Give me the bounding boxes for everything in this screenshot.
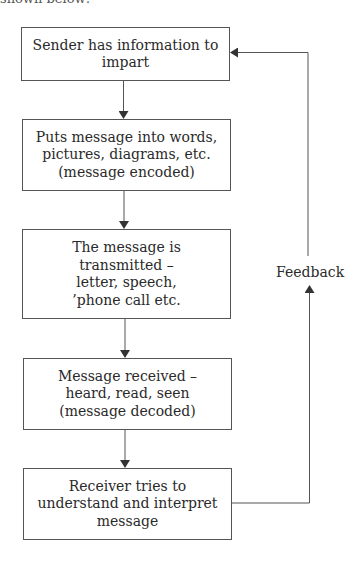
- feedback-label: Feedback: [276, 263, 344, 281]
- step-transmit-label: The message is transmitted – letter, spe…: [72, 239, 181, 309]
- step-receive: Message received – heard, read, seen (me…: [23, 358, 232, 430]
- step-encode: Puts message into words, pictures, diagr…: [22, 119, 231, 191]
- step-sender: Sender has information to impart: [21, 27, 230, 81]
- step-transmit: The message is transmitted – letter, spe…: [22, 229, 231, 319]
- step-receive-label: Message received – heard, read, seen (me…: [58, 368, 197, 421]
- step-sender-label: Sender has information to impart: [33, 37, 219, 72]
- step-interpret-label: Receiver tries to understand and interpr…: [38, 478, 218, 531]
- feedback-line-lower: [232, 300, 310, 503]
- feedback-line-upper: [245, 53, 308, 257]
- step-interpret: Receiver tries to understand and interpr…: [23, 468, 232, 540]
- step-encode-label: Puts message into words, pictures, diagr…: [36, 129, 217, 182]
